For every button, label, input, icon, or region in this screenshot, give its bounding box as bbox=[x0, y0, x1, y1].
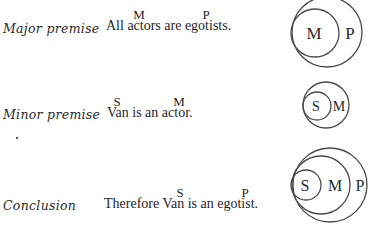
minor-premise-diagram: S M bbox=[303, 82, 349, 128]
circle-label-p: P bbox=[356, 177, 365, 194]
conclusion-diagram: S M P bbox=[291, 148, 367, 222]
major-premise-diagram: M P bbox=[291, 0, 362, 67]
circle-label-m: M bbox=[306, 24, 321, 43]
circle-label-m: M bbox=[328, 177, 342, 194]
circle-label-s: S bbox=[312, 99, 320, 114]
circle-label-p: P bbox=[345, 24, 354, 43]
circle-label-s: S bbox=[301, 177, 310, 194]
euler-diagrams: M P S M S M P bbox=[0, 0, 374, 231]
circle-label-m: M bbox=[333, 99, 346, 114]
